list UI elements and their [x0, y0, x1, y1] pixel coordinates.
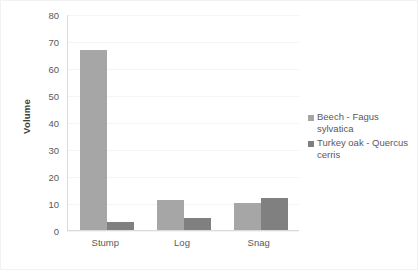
y-tick-label: 30 [48, 145, 59, 156]
legend-label: Beech - Fagus sylvatica [317, 111, 412, 135]
bar-group-log [145, 15, 222, 230]
y-tick-label: 60 [48, 64, 59, 75]
x-tick-label-snag: Snag [220, 237, 297, 248]
legend-item-1[interactable]: Beech - Fagus sylvatica [308, 111, 412, 135]
bar-log-series-2[interactable] [184, 218, 211, 230]
bar-chart-figure: Volume 01020304050607080 StumpLogSnag Be… [0, 0, 418, 270]
bar-stump-series-2[interactable] [107, 222, 134, 230]
y-tick-label: 80 [48, 10, 59, 21]
bar-snag-series-1[interactable] [234, 203, 261, 230]
y-tick-label: 40 [48, 118, 59, 129]
chart-legend: Beech - Fagus sylvaticaTurkey oak - Quer… [308, 111, 412, 163]
y-tick-label: 20 [48, 172, 59, 183]
legend-swatch-icon [308, 115, 314, 121]
bar-group-stump [68, 15, 145, 230]
y-tick-label: 0 [54, 226, 59, 237]
y-tick-label: 50 [48, 91, 59, 102]
plot-area [67, 15, 299, 231]
bar-group-snag [222, 15, 299, 230]
x-tick-label-stump: Stump [67, 237, 144, 248]
y-tick-label: 70 [48, 37, 59, 48]
y-axis-title: Volume [15, 1, 37, 231]
y-axis-tick-labels: 01020304050607080 [37, 15, 63, 231]
bar-log-series-1[interactable] [157, 200, 184, 230]
legend-swatch-icon [308, 141, 314, 147]
y-tick-label: 10 [48, 199, 59, 210]
x-tick-label-log: Log [144, 237, 221, 248]
gridline [67, 231, 299, 232]
x-axis-tick-labels: StumpLogSnag [67, 237, 297, 248]
bar-snag-series-2[interactable] [261, 198, 288, 230]
legend-item-2[interactable]: Turkey oak - Quercus cerris [308, 137, 412, 161]
plot-wrapper: 01020304050607080 [37, 15, 299, 231]
legend-label: Turkey oak - Quercus cerris [317, 137, 412, 161]
bars-layer [68, 15, 299, 230]
y-axis-title-text: Volume [21, 99, 32, 134]
x-axis-line [67, 230, 299, 231]
bar-stump-series-1[interactable] [80, 50, 107, 230]
